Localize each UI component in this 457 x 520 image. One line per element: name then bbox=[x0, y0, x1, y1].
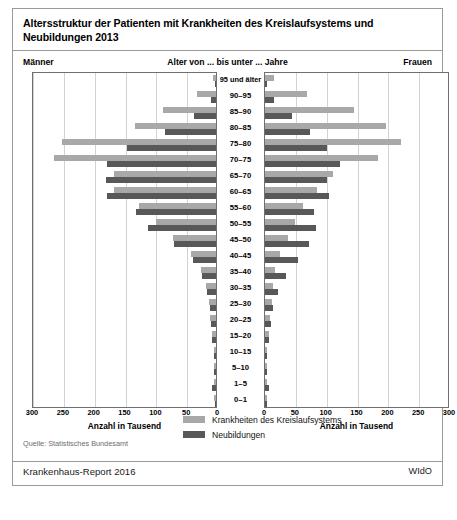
bar bbox=[165, 129, 216, 135]
gridline-150 bbox=[126, 73, 127, 407]
bar bbox=[265, 139, 401, 145]
age-label: 45–50 bbox=[217, 235, 264, 244]
bar bbox=[265, 299, 272, 305]
bar bbox=[265, 241, 309, 247]
bar bbox=[265, 379, 267, 385]
page-title-line2: Neubildungen 2013 bbox=[23, 30, 432, 44]
age-label: 5–10 bbox=[217, 363, 264, 372]
bar bbox=[265, 113, 292, 119]
bar bbox=[265, 209, 314, 215]
bar bbox=[114, 171, 216, 177]
bar bbox=[107, 161, 216, 167]
bar bbox=[197, 91, 216, 97]
bar bbox=[214, 369, 216, 375]
bar bbox=[211, 321, 216, 327]
gridline-200 bbox=[95, 73, 96, 407]
bar bbox=[265, 75, 274, 81]
caption-women: Frauen bbox=[403, 57, 432, 67]
bar bbox=[173, 235, 216, 241]
axis-tick: 100 bbox=[149, 408, 161, 417]
bar bbox=[265, 81, 267, 87]
bar bbox=[135, 123, 216, 129]
bar bbox=[214, 353, 216, 359]
source-note: Quelle: Statistisches Bundesamt bbox=[23, 439, 128, 448]
bar bbox=[265, 321, 271, 327]
page-title-line1: Altersstruktur der Patienten mit Krankhe… bbox=[23, 16, 432, 30]
bar bbox=[114, 187, 216, 193]
axis-tick: 300 bbox=[443, 408, 455, 417]
axis-tick: 300 bbox=[26, 408, 38, 417]
bar bbox=[209, 299, 216, 305]
legend-label-circulatory: Krankheiten des Kreislaufsystems bbox=[212, 415, 341, 425]
gridline-250 bbox=[64, 73, 65, 407]
figure-footer: Krankenhaus-Report 2016 WIdO bbox=[13, 461, 442, 485]
age-label: 60–65 bbox=[217, 187, 264, 196]
age-label: 50–55 bbox=[217, 219, 264, 228]
bar bbox=[265, 369, 267, 375]
bar bbox=[265, 171, 333, 177]
bar bbox=[265, 363, 267, 369]
bar bbox=[265, 155, 378, 161]
bar bbox=[265, 187, 317, 193]
bar bbox=[210, 315, 216, 321]
bar bbox=[215, 81, 217, 87]
legend-swatch-circulatory bbox=[183, 416, 205, 423]
bar bbox=[62, 139, 216, 145]
bar bbox=[265, 273, 286, 279]
gridline-200 bbox=[388, 73, 389, 407]
bar bbox=[214, 395, 216, 401]
caption-men: Männer bbox=[23, 57, 54, 67]
bar bbox=[207, 289, 216, 295]
bar bbox=[201, 267, 216, 273]
bar bbox=[265, 161, 340, 167]
figure-panel: Altersstruktur der Patienten mit Krankhe… bbox=[12, 8, 443, 486]
age-label: 15–20 bbox=[217, 331, 264, 340]
bar bbox=[265, 219, 295, 225]
bar bbox=[174, 241, 216, 247]
pyramid-plot: 95 und älter90–9585–9080–8575–8070–7565–… bbox=[23, 72, 432, 408]
gridline-250 bbox=[419, 73, 420, 407]
age-label: 40–45 bbox=[217, 251, 264, 260]
bar bbox=[265, 315, 270, 321]
female-panel bbox=[264, 72, 449, 408]
bar bbox=[214, 363, 216, 369]
legend-item-neoplasms: Neubildungen bbox=[183, 428, 341, 441]
bar bbox=[212, 331, 216, 337]
bar bbox=[265, 235, 288, 241]
bar bbox=[212, 385, 216, 391]
bar bbox=[136, 209, 216, 215]
bar bbox=[213, 75, 216, 81]
bar bbox=[265, 347, 267, 353]
bar bbox=[212, 337, 216, 343]
bar bbox=[265, 401, 267, 407]
age-label: 30–35 bbox=[217, 283, 264, 292]
bar bbox=[265, 305, 273, 311]
age-label: 65–70 bbox=[217, 171, 264, 180]
bar bbox=[265, 123, 386, 129]
age-label: 80–85 bbox=[217, 123, 264, 132]
bar bbox=[265, 145, 327, 151]
age-label: 25–30 bbox=[217, 299, 264, 308]
bar bbox=[265, 177, 327, 183]
bar bbox=[202, 273, 216, 279]
legend-item-circulatory: Krankheiten des Kreislaufsystems bbox=[183, 413, 341, 426]
bar bbox=[210, 305, 216, 311]
bar bbox=[211, 97, 216, 103]
bar bbox=[193, 257, 216, 263]
report-name: Krankenhaus-Report 2016 bbox=[23, 466, 136, 477]
bar bbox=[265, 193, 329, 199]
caption-band: Männer Alter von ... bis unter ... Jahre… bbox=[13, 55, 442, 72]
age-label: 1–5 bbox=[217, 379, 264, 388]
bar bbox=[127, 145, 216, 151]
axis-tick: 250 bbox=[57, 408, 69, 417]
bar bbox=[265, 331, 269, 337]
age-label: 70–75 bbox=[217, 155, 264, 164]
bar bbox=[265, 267, 275, 273]
bar bbox=[265, 385, 269, 391]
bar bbox=[265, 353, 267, 359]
axis-tick: 200 bbox=[87, 408, 99, 417]
bar bbox=[214, 379, 216, 385]
legend-swatch-neoplasms bbox=[183, 431, 205, 438]
axis-tick: 250 bbox=[412, 408, 424, 417]
chart-legend: Krankheiten des Kreislaufsystems Neubild… bbox=[183, 413, 341, 443]
